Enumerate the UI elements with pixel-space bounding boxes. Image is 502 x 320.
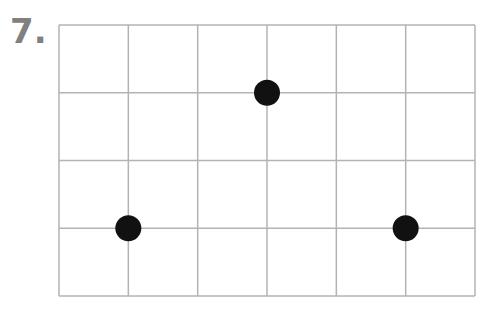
dot-grid (0, 0, 502, 320)
grid-point (393, 215, 419, 241)
grid-point (115, 215, 141, 241)
grid-point (254, 80, 280, 106)
